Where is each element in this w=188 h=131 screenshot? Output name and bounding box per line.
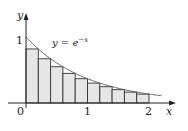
y-axis-label: y <box>16 9 24 22</box>
x-axis-label: x <box>166 105 173 118</box>
riemann-rectangle <box>75 79 87 103</box>
riemann-rectangle <box>51 67 63 103</box>
tick-x-0: 0 <box>17 105 24 118</box>
riemann-rectangle <box>124 92 136 103</box>
riemann-rectangle <box>112 90 124 103</box>
riemann-rectangle <box>137 94 149 103</box>
riemann-rectangles <box>26 49 149 103</box>
tick-y-1: 1 <box>16 34 23 47</box>
y-axis-arrow-icon <box>24 13 29 20</box>
riemann-rectangle <box>88 83 100 103</box>
tick-x-1: 1 <box>84 105 91 118</box>
riemann-rectangle <box>100 87 112 103</box>
riemann-sum-diagram: y x 1 0 1 2 y = e−x <box>0 0 188 131</box>
tick-x-2: 2 <box>145 105 152 118</box>
function-label: y = e−x <box>51 36 88 48</box>
riemann-rectangle <box>38 59 50 103</box>
riemann-rectangle <box>26 49 38 103</box>
riemann-rectangle <box>63 73 75 103</box>
